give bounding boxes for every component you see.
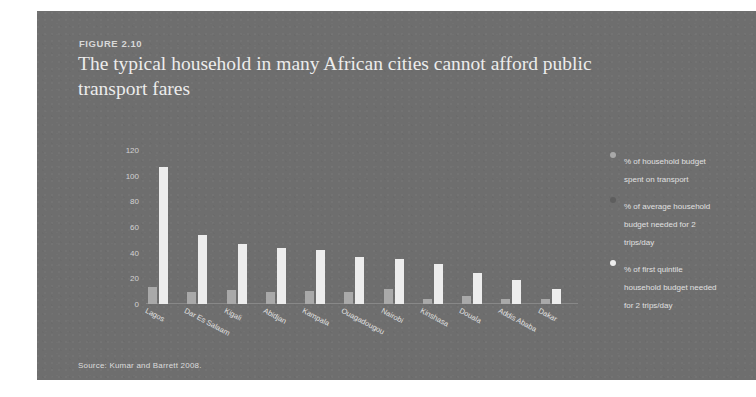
bar [395, 259, 404, 304]
bar [434, 264, 443, 304]
chart-plot-area: 020406080100120 LagosDar Es SalaamKigali… [146, 150, 578, 304]
x-axis-label: Kigali [222, 306, 242, 323]
x-axis-label: Dakar [536, 306, 558, 323]
y-axis-tick-100: 100 [126, 171, 139, 180]
bar-group [227, 244, 247, 304]
bar [238, 244, 247, 304]
y-axis-tick-80: 80 [130, 197, 139, 206]
chart-legend: % of household budget spent on transport… [610, 150, 720, 321]
legend-swatch-icon [610, 152, 616, 158]
bar [462, 296, 471, 304]
y-axis-tick-20: 20 [130, 274, 139, 283]
x-axis-label: Kampala [301, 306, 331, 328]
legend-swatch-icon [610, 260, 616, 266]
x-axis-label: Abidjan [262, 306, 288, 326]
bar [512, 280, 521, 304]
legend-item[interactable]: % of average household budget needed for… [610, 195, 720, 249]
bar [423, 299, 432, 304]
bar [227, 290, 236, 304]
bar-group [462, 273, 482, 304]
x-axis-label: Nairobi [379, 306, 404, 325]
bar [198, 235, 207, 304]
x-axis-label: Lagos [144, 306, 166, 324]
bar-group [501, 280, 521, 304]
legend-label: % of first quintile household budget nee… [624, 265, 717, 310]
figure-title: The typical household in many African ci… [78, 51, 638, 101]
bar [277, 248, 286, 304]
bar [187, 292, 196, 304]
legend-item[interactable]: % of household budget spent on transport [610, 150, 720, 186]
bar [148, 287, 157, 304]
figure-source: Source: Kumar and Barrett 2008. [78, 361, 202, 370]
bar-group [384, 259, 404, 304]
x-axis-label: Ouagadougou [340, 306, 386, 336]
bar-group [148, 167, 168, 304]
bar [541, 299, 550, 304]
y-axis-tick-120: 120 [126, 146, 139, 155]
figure-number: FIGURE 2.10 [79, 38, 142, 49]
bar-group [423, 264, 443, 304]
x-axis-label: Addis Ababa [497, 306, 538, 334]
y-axis-tick-0: 0 [135, 300, 139, 309]
y-axis-tick-60: 60 [130, 223, 139, 232]
legend-label: % of household budget spent on transport [624, 157, 706, 184]
figure-panel: FIGURE 2.10 The typical household in man… [37, 11, 756, 380]
x-axis-label: Kinshasa [419, 306, 450, 328]
bar [266, 292, 275, 304]
bar [384, 289, 393, 304]
bar [552, 289, 561, 304]
bar [344, 292, 353, 304]
legend-label: % of average household budget needed for… [624, 202, 710, 247]
bar-group [305, 250, 325, 304]
bar [473, 273, 482, 304]
y-axis-tick-40: 40 [130, 248, 139, 257]
bar-group [541, 289, 561, 304]
bar-group [266, 248, 286, 304]
bar [305, 291, 314, 304]
bar [159, 167, 168, 304]
legend-item[interactable]: % of first quintile household budget nee… [610, 258, 720, 312]
bar [501, 299, 510, 304]
bar [316, 250, 325, 304]
bar-group [344, 257, 364, 304]
bar [355, 257, 364, 304]
legend-swatch-icon [610, 197, 616, 203]
figure-page: FIGURE 2.10 The typical household in man… [0, 0, 756, 397]
x-axis-label: Douala [458, 306, 483, 325]
bar-group [187, 235, 207, 304]
